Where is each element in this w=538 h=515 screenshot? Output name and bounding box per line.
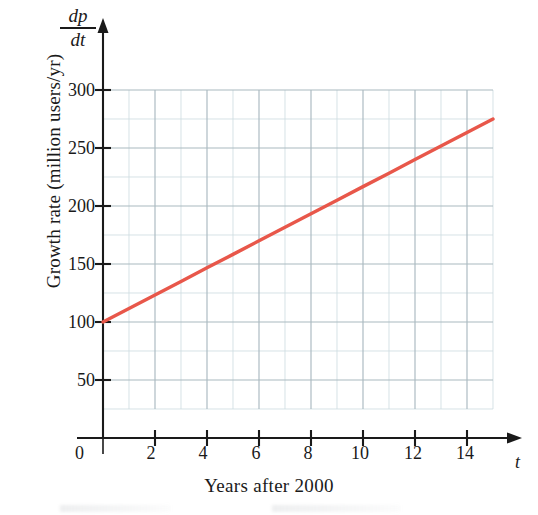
- axis-tick-marks: [95, 90, 467, 454]
- scan-artifact: [272, 505, 400, 512]
- plot-canvas: [0, 0, 538, 515]
- major-gridlines: [103, 90, 493, 409]
- minor-gridlines: [103, 90, 493, 409]
- growth-rate-line-chart: dp dt Growth rate (million users/yr) Yea…: [0, 0, 538, 515]
- scan-artifact: [60, 505, 170, 512]
- data-series-line: [103, 119, 493, 322]
